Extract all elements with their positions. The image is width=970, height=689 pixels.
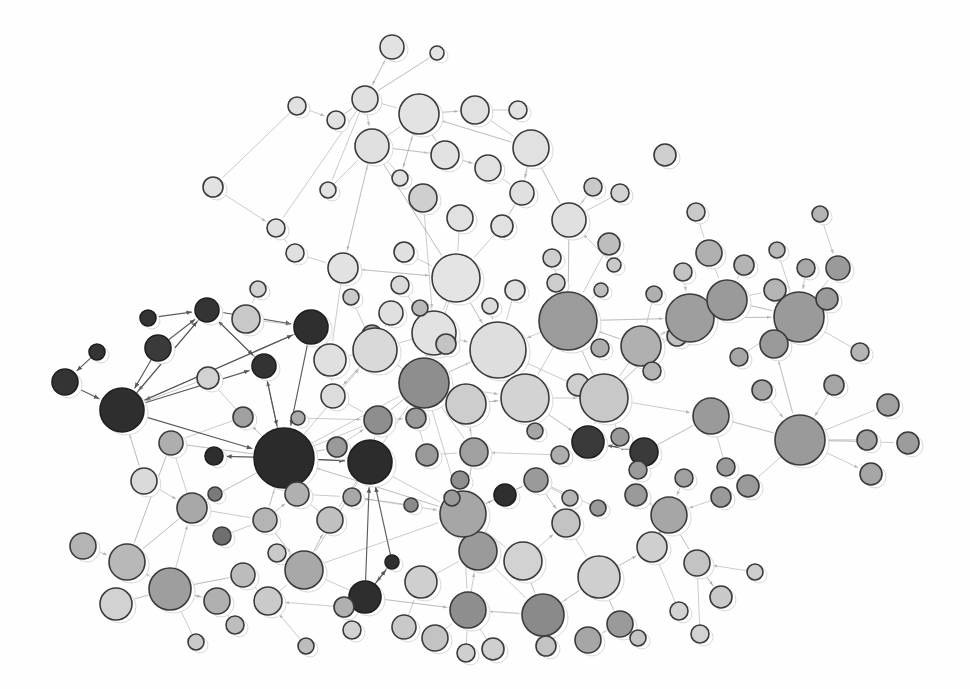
graph-node[interactable] xyxy=(267,219,285,237)
graph-node[interactable] xyxy=(109,544,145,580)
graph-node[interactable] xyxy=(611,184,629,202)
graph-node[interactable] xyxy=(177,493,207,523)
graph-node[interactable] xyxy=(298,638,314,654)
graph-node[interactable] xyxy=(159,431,183,455)
graph-node[interactable] xyxy=(580,374,628,422)
graph-node[interactable] xyxy=(253,508,277,532)
graph-node[interactable] xyxy=(379,301,403,325)
graph-node[interactable] xyxy=(670,602,688,620)
graph-node[interactable] xyxy=(717,458,735,476)
graph-node[interactable] xyxy=(760,330,788,358)
graph-node[interactable] xyxy=(527,423,543,439)
graph-node[interactable] xyxy=(285,482,309,506)
graph-node[interactable] xyxy=(457,644,475,662)
graph-node[interactable] xyxy=(461,96,489,124)
graph-node[interactable] xyxy=(430,46,444,60)
graph-node[interactable] xyxy=(446,384,486,424)
graph-node[interactable] xyxy=(522,594,564,636)
graph-node[interactable] xyxy=(509,101,527,119)
graph-node[interactable] xyxy=(405,566,437,598)
graph-node[interactable] xyxy=(226,616,244,634)
graph-node[interactable] xyxy=(747,564,763,580)
graph-node[interactable] xyxy=(630,630,646,646)
graph-node[interactable] xyxy=(131,468,157,494)
graph-node[interactable] xyxy=(343,289,359,305)
graph-node[interactable] xyxy=(149,568,191,610)
graph-node[interactable] xyxy=(482,298,498,314)
graph-node[interactable] xyxy=(321,384,345,408)
graph-node[interactable] xyxy=(327,111,345,129)
graph-node[interactable] xyxy=(348,440,392,484)
graph-node[interactable] xyxy=(52,369,78,395)
graph-node[interactable] xyxy=(752,380,772,400)
graph-node[interactable] xyxy=(552,509,580,537)
graph-node[interactable] xyxy=(444,490,460,506)
graph-node[interactable] xyxy=(693,398,729,434)
graph-node[interactable] xyxy=(711,487,731,507)
graph-node[interactable] xyxy=(208,487,222,501)
graph-node[interactable] xyxy=(629,461,647,479)
graph-node[interactable] xyxy=(475,155,501,181)
graph-node[interactable] xyxy=(860,463,882,485)
graph-node[interactable] xyxy=(491,215,513,237)
graph-node[interactable] xyxy=(607,611,633,637)
graph-node[interactable] xyxy=(254,428,314,488)
graph-node[interactable] xyxy=(691,625,709,643)
graph-node[interactable] xyxy=(552,203,586,237)
graph-node[interactable] xyxy=(447,205,473,231)
graph-node[interactable] xyxy=(775,415,825,465)
graph-node[interactable] xyxy=(513,130,549,166)
graph-node[interactable] xyxy=(380,35,404,59)
graph-node[interactable] xyxy=(250,281,266,297)
graph-node[interactable] xyxy=(897,432,919,454)
graph-node[interactable] xyxy=(797,259,815,277)
graph-node[interactable] xyxy=(195,298,219,322)
graph-node[interactable] xyxy=(286,244,304,262)
graph-node[interactable] xyxy=(188,634,204,650)
graph-node[interactable] xyxy=(637,532,667,562)
graph-node[interactable] xyxy=(89,344,105,360)
graph-node[interactable] xyxy=(205,447,223,465)
graph-node[interactable] xyxy=(730,348,748,366)
graph-node[interactable] xyxy=(539,292,597,350)
graph-node[interactable] xyxy=(590,500,606,516)
graph-node[interactable] xyxy=(409,184,437,212)
graph-node[interactable] xyxy=(684,550,710,576)
graph-node[interactable] xyxy=(317,507,343,533)
graph-node[interactable] xyxy=(812,206,828,222)
graph-node[interactable] xyxy=(674,263,692,281)
graph-node[interactable] xyxy=(607,258,621,272)
graph-node[interactable] xyxy=(436,334,456,354)
graph-node[interactable] xyxy=(562,490,578,506)
graph-node[interactable] xyxy=(543,249,561,267)
graph-node[interactable] xyxy=(737,475,759,497)
graph-node[interactable] xyxy=(100,388,144,432)
graph-node[interactable] xyxy=(285,551,323,589)
graph-node[interactable] xyxy=(687,203,705,221)
graph-node[interactable] xyxy=(654,144,676,166)
graph-node[interactable] xyxy=(140,310,156,326)
graph-node[interactable] xyxy=(710,586,732,608)
graph-node[interactable] xyxy=(231,563,255,587)
graph-node[interactable] xyxy=(769,242,785,258)
graph-node[interactable] xyxy=(584,178,602,196)
graph-node[interactable] xyxy=(392,170,408,186)
graph-node[interactable] xyxy=(816,288,838,310)
graph-node[interactable] xyxy=(696,240,722,266)
graph-node[interactable] xyxy=(328,253,358,283)
graph-node[interactable] xyxy=(594,283,608,297)
graph-node[interactable] xyxy=(399,358,449,408)
graph-node[interactable] xyxy=(551,446,569,464)
graph-node[interactable] xyxy=(352,86,378,112)
graph-node[interactable] xyxy=(404,498,418,512)
graph-node[interactable] xyxy=(268,544,286,562)
graph-node[interactable] xyxy=(232,305,260,333)
graph-node[interactable] xyxy=(851,343,869,361)
graph-node[interactable] xyxy=(536,636,556,656)
graph-node[interactable] xyxy=(422,625,448,651)
graph-node[interactable] xyxy=(598,233,620,255)
graph-node[interactable] xyxy=(355,129,389,163)
graph-node[interactable] xyxy=(501,374,549,422)
graph-node[interactable] xyxy=(432,254,480,302)
graph-node[interactable] xyxy=(611,428,629,446)
